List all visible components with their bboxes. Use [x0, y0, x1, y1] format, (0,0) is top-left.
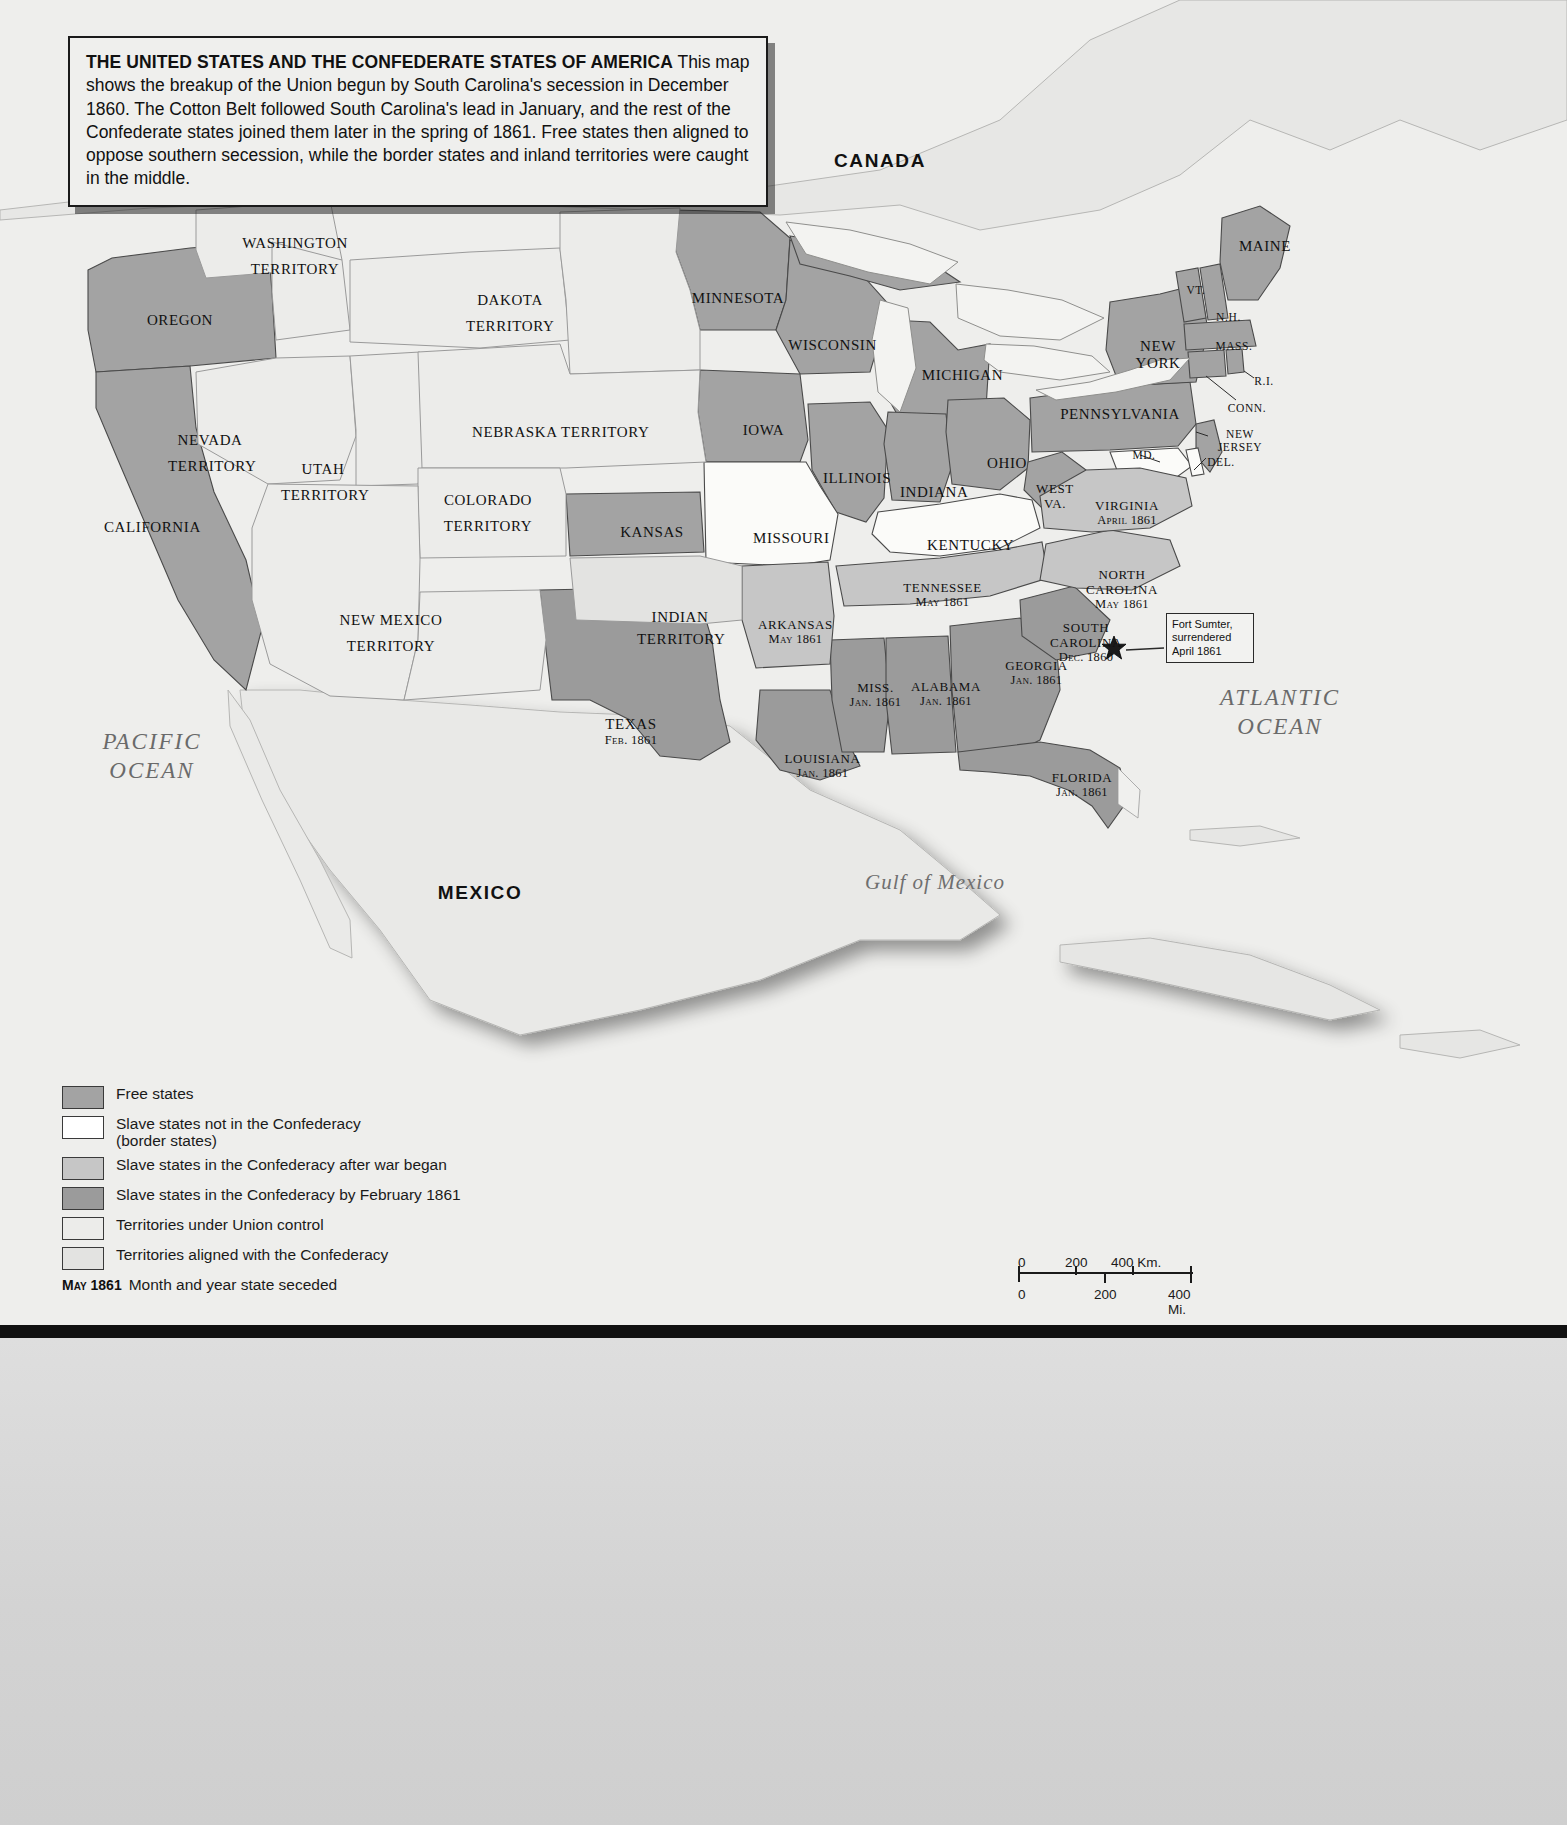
- legend-item-free-states: Free states: [62, 1085, 461, 1109]
- legend-item-confederacy-after-war: Slave states in the Confederacy after wa…: [62, 1156, 461, 1180]
- section-divider: [0, 1325, 1567, 1338]
- legend-label-free-states: Free states: [116, 1085, 194, 1102]
- legend-swatch-confederate-territories: [62, 1247, 104, 1270]
- legend-swatch-free-states: [62, 1086, 104, 1109]
- scale-mi-labels: 0 200 400 Mi.: [1018, 1286, 1193, 1305]
- map-canvas: THE UNITED STATES AND THE CONFEDERATE ST…: [0, 0, 1567, 1330]
- colorado-territory-shape: [418, 468, 566, 558]
- timeline-section: 1860 1863 1864 1865 Lincoln elected Eman…: [0, 1338, 1567, 1825]
- legend-label-confederacy-after-war: Slave states in the Confederacy after wa…: [116, 1156, 447, 1173]
- legend-swatch-confederacy-after-war: [62, 1157, 104, 1180]
- legend-swatch-confederacy-by-feb: [62, 1187, 104, 1210]
- map-title-body: This map shows the breakup of the Union …: [86, 52, 749, 188]
- dakota-territory-west-shape: [350, 248, 570, 348]
- scale-km-labels: 0 200 400 Km.: [1018, 1255, 1193, 1272]
- arizona-part-shape: [404, 590, 546, 700]
- fort-sumter-callout: Fort Sumter, surrendered April 1861: [1166, 613, 1254, 663]
- scale-mi-400: 400 Mi.: [1168, 1287, 1193, 1317]
- legend-swatch-border-states: [62, 1116, 104, 1139]
- scale-ruler: [1018, 1272, 1193, 1286]
- new-mexico-territory-shape: [252, 484, 420, 700]
- legend-date-note: May 1861 Month and year state seceded: [62, 1276, 461, 1294]
- map-title-heading: THE UNITED STATES AND THE CONFEDERATE ST…: [86, 52, 673, 72]
- legend-item-confederacy-by-feb: Slave states in the Confederacy by Febru…: [62, 1186, 461, 1210]
- legend-label-union-territories: Territories under Union control: [116, 1216, 324, 1233]
- legend-label-confederate-territories: Territories aligned with the Confederacy: [116, 1246, 388, 1263]
- legend-item-confederate-territories: Territories aligned with the Confederacy: [62, 1246, 461, 1270]
- utah-territory-shape: [350, 352, 430, 486]
- scale-mi-200: 200: [1094, 1287, 1117, 1302]
- legend-date-key: May 1861: [62, 1277, 122, 1293]
- legend-item-border-states: Slave states not in the Confederacy (bor…: [62, 1115, 461, 1150]
- legend-item-union-territories: Territories under Union control: [62, 1216, 461, 1240]
- legend-label-confederacy-by-feb: Slave states in the Confederacy by Febru…: [116, 1186, 461, 1203]
- indian-territory-group: [570, 556, 742, 624]
- map-scale-bar: 0 200 400 Km. 0 200 400 Mi.: [1018, 1255, 1193, 1305]
- legend-label-border-states: Slave states not in the Confederacy (bor…: [116, 1115, 361, 1150]
- legend-date-description: Month and year state seceded: [129, 1276, 338, 1294]
- map-title-box: THE UNITED STATES AND THE CONFEDERATE ST…: [68, 36, 768, 207]
- scale-km-400: 400 Km.: [1111, 1255, 1161, 1270]
- legend-swatch-union-territories: [62, 1217, 104, 1240]
- map-legend: Free states Slave states not in the Conf…: [62, 1085, 461, 1294]
- scale-mi-0: 0: [1018, 1287, 1026, 1302]
